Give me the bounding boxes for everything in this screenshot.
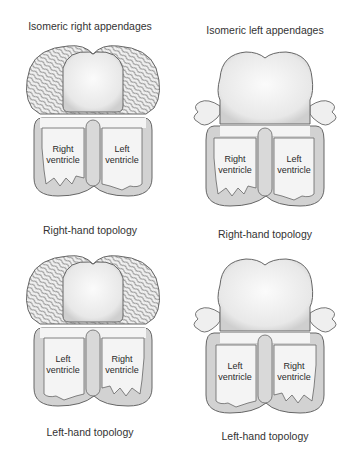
atrial-chamber bbox=[63, 52, 123, 112]
ventricle-label-left-line2: ventricle bbox=[46, 155, 80, 165]
atrial-chamber bbox=[218, 52, 313, 124]
atrial-chamber bbox=[63, 262, 123, 322]
heart-panel-top-left: Right ventricle Left ventricle bbox=[18, 38, 168, 200]
ventricle-label-left-line2: ventricle bbox=[218, 372, 252, 382]
column-title-left-appendages: Isomeric left appendages bbox=[190, 24, 340, 36]
caption-top-right: Right-hand topology bbox=[190, 228, 340, 240]
ventricle-label-left-line1: Left bbox=[227, 361, 243, 371]
ventricle-label-left-line1: Right bbox=[52, 144, 74, 154]
ventricular-septum bbox=[258, 128, 272, 196]
caption-bottom-right: Left-hand topology bbox=[190, 430, 340, 442]
caption-bottom-left: Left-hand topology bbox=[15, 426, 165, 438]
ventricle-label-left-line2: ventricle bbox=[46, 365, 80, 375]
left-atrial-appendage-right bbox=[310, 101, 336, 125]
ventricle-label-right-line2: ventricle bbox=[105, 365, 139, 375]
ventricular-septum bbox=[258, 335, 272, 403]
ventricular-septum bbox=[86, 120, 100, 186]
ventricle-label-right-line1: Left bbox=[114, 144, 130, 154]
ventricle-label-right-line2: ventricle bbox=[105, 155, 139, 165]
caption-top-left: Right-hand topology bbox=[15, 224, 165, 236]
ventricle-label-right-line1: Right bbox=[283, 361, 305, 371]
ventricle-label-left-line1: Left bbox=[55, 354, 71, 364]
ventricle-label-right-line1: Right bbox=[111, 354, 133, 364]
column-title-right-appendages: Isomeric right appendages bbox=[15, 20, 165, 32]
left-atrial-appendage-left bbox=[194, 101, 220, 125]
left-atrial-appendage-right bbox=[310, 308, 336, 332]
ventricle-label-right-line1: Left bbox=[286, 154, 302, 164]
ventricular-septum bbox=[86, 330, 100, 396]
ventricle-label-right-line2: ventricle bbox=[277, 372, 311, 382]
ventricle-label-right-line2: ventricle bbox=[277, 165, 311, 175]
heart-panel-top-right: Right ventricle Left ventricle bbox=[190, 48, 340, 210]
heart-panel-bottom-left: Left ventricle Right ventricle bbox=[18, 248, 168, 410]
heart-panel-bottom-right: Left ventricle Right ventricle bbox=[190, 255, 340, 417]
ventricle-label-left-line1: Right bbox=[224, 154, 246, 164]
ventricle-label-left-line2: ventricle bbox=[218, 165, 252, 175]
atrial-chamber bbox=[218, 259, 313, 331]
left-atrial-appendage-left bbox=[194, 308, 220, 332]
